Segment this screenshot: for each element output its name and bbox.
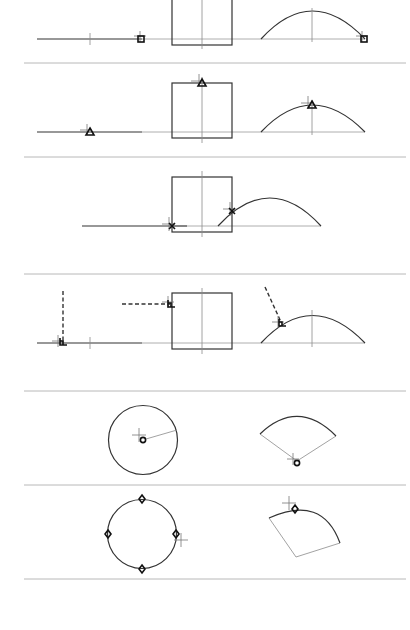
perpendicular-icon xyxy=(52,335,67,347)
panel-quadrant xyxy=(105,495,340,573)
center-circle-icon xyxy=(294,460,299,465)
panel-intersection xyxy=(82,171,321,237)
radius-line xyxy=(146,430,177,439)
circle xyxy=(109,406,178,475)
arc xyxy=(261,316,365,344)
arc xyxy=(261,105,365,132)
crosshair-icon xyxy=(282,496,296,510)
intersection-x-icon xyxy=(162,217,175,231)
sector-radii xyxy=(260,434,336,461)
arc xyxy=(261,11,365,39)
panel-center xyxy=(109,406,337,475)
quadrant-diamond-icon xyxy=(292,505,298,513)
endpoint-square-icon xyxy=(134,31,146,42)
circle xyxy=(108,500,177,569)
snap-diagram xyxy=(0,0,410,630)
midpoint-triangle-icon xyxy=(191,74,206,86)
midpoint-triangle-icon xyxy=(301,96,316,109)
panel-endpoint xyxy=(37,0,368,49)
center-circle-icon xyxy=(140,437,145,442)
sector-arc xyxy=(260,416,336,436)
intersection-x-icon xyxy=(223,202,235,216)
crosshair-icon xyxy=(132,428,146,442)
panel-midpoint xyxy=(37,74,365,143)
perpendicular-icon xyxy=(162,296,175,308)
panel-perpendicular xyxy=(37,287,365,354)
sector-arc xyxy=(269,510,340,543)
midpoint-triangle-icon xyxy=(80,124,94,135)
dashed-perpendicular-line xyxy=(265,287,281,322)
